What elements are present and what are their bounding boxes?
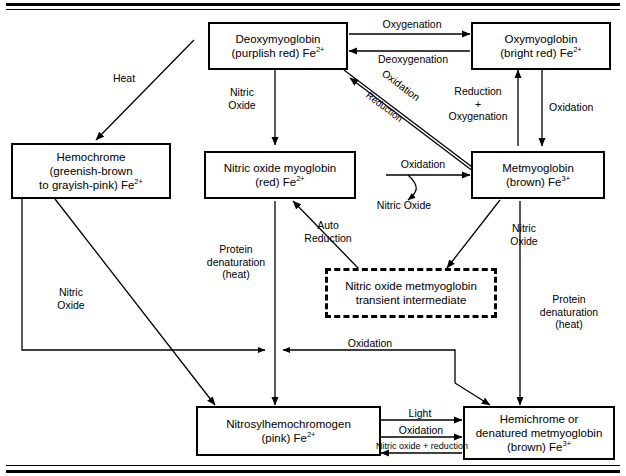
label-nitric-oxide-met: Nitric Oxide xyxy=(497,222,551,247)
node-metmyoglobin-text: Metmyoglobin (brown) Fe3+ xyxy=(498,161,578,189)
node-nitric-oxide-myoglobin-charge: 2+ xyxy=(296,174,305,183)
node-metmyoglobin-line2: (brown) Fe xyxy=(506,176,562,188)
node-nitric-oxide-metmyoglobin[interactable]: Nitric oxide metmyoglobin transient inte… xyxy=(325,268,497,318)
top-rule-thick xyxy=(6,3,620,6)
arrow-oxidation-lower-tail xyxy=(455,383,490,405)
arrow-nitric-oxide-released xyxy=(408,175,416,200)
node-oxymyoglobin-line1: Oxymyoglobin xyxy=(505,33,578,45)
node-nitric-oxide-metmyoglobin-line1: Nitric oxide metmyoglobin xyxy=(345,280,477,292)
bottom-rule-thick xyxy=(6,470,620,473)
arrow-heat xyxy=(96,40,194,140)
node-deoxymyoglobin-line2: (purplish red) Fe xyxy=(232,47,316,59)
node-metmyoglobin-line1: Metmyoglobin xyxy=(502,162,574,174)
label-light: Light xyxy=(385,407,455,420)
node-deoxymyoglobin-charge: 2+ xyxy=(316,45,325,54)
bottom-rule-thin xyxy=(6,465,620,466)
node-nitrosylhemochromogen[interactable]: Nitrosylhemochromogen (pink) Fe2+ xyxy=(196,406,381,456)
node-oxymyoglobin-charge: 2+ xyxy=(573,45,582,54)
node-nitrosylhemochromogen-text: Nitrosylhemochromogen (pink) Fe2+ xyxy=(222,417,355,445)
label-nitric-oxide-top-text: Nitric Oxide xyxy=(228,86,255,111)
label-oxidation-bottom: Oxidation xyxy=(382,424,460,437)
label-protein-denaturation-right: Protein denaturation (heat) xyxy=(527,293,611,331)
arrow-nitric-oxide-met xyxy=(447,200,500,268)
label-protein-denaturation-left-text: Protein denaturation (heat) xyxy=(207,243,265,280)
label-auto-reduction: Auto Reduction xyxy=(292,219,364,244)
top-rule-thin xyxy=(6,9,620,10)
node-hemichrome-text: Hemichrome or denatured metmyoglobin (br… xyxy=(472,412,607,454)
node-oxymyoglobin[interactable]: Oxymyoglobin (bright red) Fe2+ xyxy=(471,22,611,70)
arrow-oxidation-lower xyxy=(283,350,455,383)
node-deoxymyoglobin-line1: Deoxymyoglobin xyxy=(235,33,320,45)
label-reduction-oxygenation-text: Reduction + Oxygenation xyxy=(449,85,508,122)
label-nitric-oxide-lower-left-text: Nitric Oxide xyxy=(57,286,84,311)
node-hemochrome-line3: to grayish-pink) Fe xyxy=(39,179,134,191)
node-hemichrome-charge: 3+ xyxy=(563,439,572,448)
label-auto-reduction-text: Auto Reduction xyxy=(304,219,351,244)
node-hemichrome-line1: Hemichrome or xyxy=(500,413,579,425)
label-nitric-oxide-met-text: Nitric Oxide xyxy=(510,222,537,247)
node-hemochrome[interactable]: Hemochrome (greenish-brown to grayish-pi… xyxy=(11,143,171,199)
label-oxidation-middle: Oxidation xyxy=(383,158,463,171)
node-oxymyoglobin-line2: (bright red) Fe xyxy=(500,47,573,59)
node-nitrosylhemochromogen-line2: (pink) Fe xyxy=(262,432,307,444)
node-hemochrome-line1: Hemochrome xyxy=(56,151,125,163)
node-nitric-oxide-myoglobin-line2: (red) Fe xyxy=(255,176,296,188)
label-protein-denaturation-left: Protein denaturation (heat) xyxy=(196,243,276,281)
label-reduction-oxygenation: Reduction + Oxygenation xyxy=(440,85,516,123)
node-nitric-oxide-metmyoglobin-text: Nitric oxide metmyoglobin transient inte… xyxy=(341,279,481,307)
node-nitric-oxide-myoglobin[interactable]: Nitric oxide myoglobin (red) Fe2+ xyxy=(204,151,356,199)
label-heat: Heat xyxy=(104,72,144,85)
label-oxidation-right: Oxidation xyxy=(549,101,609,114)
node-metmyoglobin[interactable]: Metmyoglobin (brown) Fe3+ xyxy=(471,151,605,199)
node-oxymyoglobin-text: Oxymyoglobin (bright red) Fe2+ xyxy=(496,32,585,60)
node-deoxymyoglobin-text: Deoxymyoglobin (purplish red) Fe2+ xyxy=(228,32,329,60)
diagram-canvas: Deoxymyoglobin (purplish red) Fe2+ Oxymy… xyxy=(0,0,626,476)
node-nitrosylhemochromogen-charge: 2+ xyxy=(307,430,316,439)
node-hemichrome-line3: (brown) Fe xyxy=(507,441,563,453)
label-oxidation-lower: Oxidation xyxy=(325,337,415,350)
node-hemichrome-line2: denatured metmyoglobin xyxy=(476,427,603,439)
node-hemochrome-charge: 2+ xyxy=(134,177,143,186)
node-nitric-oxide-myoglobin-text: Nitric oxide myoglobin (red) Fe2+ xyxy=(220,161,341,189)
node-nitric-oxide-myoglobin-line1: Nitric oxide myoglobin xyxy=(224,162,337,174)
label-nitric-oxide-reduction: Nitric oxide + reduction xyxy=(370,440,474,453)
label-nitric-oxide-released: Nitric Oxide xyxy=(359,199,449,212)
node-hemichrome[interactable]: Hemichrome or denatured metmyoglobin (br… xyxy=(463,406,615,460)
node-deoxymyoglobin[interactable]: Deoxymyoglobin (purplish red) Fe2+ xyxy=(208,22,348,70)
node-hemochrome-text: Hemochrome (greenish-brown to grayish-pi… xyxy=(35,150,147,192)
label-oxygenation: Oxygenation xyxy=(367,18,457,31)
node-metmyoglobin-charge: 3+ xyxy=(562,174,571,183)
node-hemochrome-line2: (greenish-brown xyxy=(49,165,132,177)
label-nitric-oxide-lower-left: Nitric Oxide xyxy=(44,286,98,311)
node-nitrosylhemochromogen-line1: Nitrosylhemochromogen xyxy=(226,418,351,430)
node-nitric-oxide-metmyoglobin-line2: transient intermediate xyxy=(356,294,467,306)
label-protein-denaturation-right-text: Protein denaturation (heat) xyxy=(540,293,598,330)
label-nitric-oxide-top: Nitric Oxide xyxy=(215,86,269,111)
